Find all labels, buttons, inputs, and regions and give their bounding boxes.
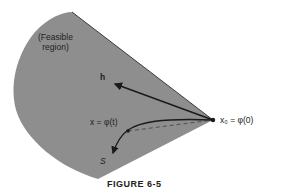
s-label: S <box>100 157 106 166</box>
region-label-line2: region) <box>38 42 73 52</box>
point-x-phi-t <box>126 129 130 133</box>
x-phi-t-label: x = φ(t) <box>90 118 117 127</box>
figure-diagram <box>0 0 281 195</box>
figure-caption: FIGURE 6-5 <box>107 180 162 189</box>
x0-label: x₀ = φ(0) <box>220 116 253 125</box>
feasible-region-label: (Feasible region) <box>38 32 73 52</box>
h-label: h <box>100 73 105 82</box>
region-label-line1: (Feasible <box>38 32 73 42</box>
point-x0 <box>211 118 215 122</box>
